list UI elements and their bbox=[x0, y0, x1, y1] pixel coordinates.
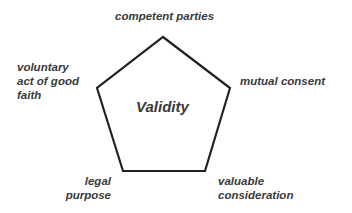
label-bottom-left-line1: legal bbox=[60, 174, 111, 188]
label-bottom-right-line1: valuable bbox=[218, 174, 293, 188]
label-bottom-right: valuable consideration bbox=[218, 174, 293, 202]
label-left-line1: voluntary bbox=[17, 60, 79, 74]
label-top: competent parties bbox=[115, 9, 214, 23]
label-bottom-left: legal purpose bbox=[60, 174, 111, 202]
center-label: Validity bbox=[136, 98, 189, 115]
label-left: voluntary act of good faith bbox=[17, 60, 79, 102]
label-right: mutual consent bbox=[240, 74, 325, 88]
label-left-line3: faith bbox=[17, 88, 79, 102]
label-left-line2: act of good bbox=[17, 74, 79, 88]
label-bottom-left-line2: purpose bbox=[60, 188, 111, 202]
label-bottom-right-line2: consideration bbox=[218, 188, 293, 202]
